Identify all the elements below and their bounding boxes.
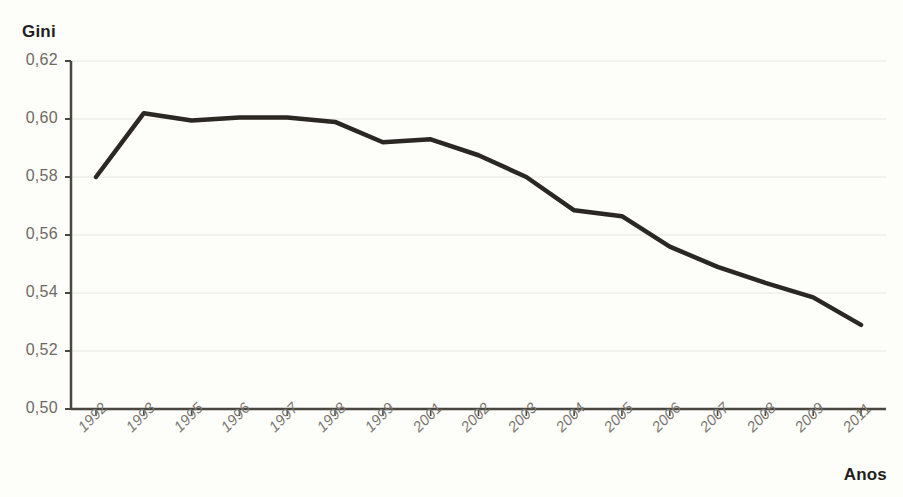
y-tick-label: 0,60 xyxy=(6,109,58,127)
tick-marks-group xyxy=(65,61,861,416)
y-tick-label: 0,56 xyxy=(6,225,58,243)
y-tick-label: 0,50 xyxy=(6,399,58,417)
y-tick-label: 0,58 xyxy=(6,167,58,185)
y-tick-label: 0,54 xyxy=(6,283,58,301)
y-tick-label: 0,62 xyxy=(6,51,58,69)
x-axis-title: Anos xyxy=(844,465,887,485)
gini-line-chart: Gini 0,620,600,580,560,540,520,50 199219… xyxy=(0,0,903,497)
y-tick-label: 0,52 xyxy=(6,341,58,359)
gridlines-group xyxy=(71,61,886,351)
